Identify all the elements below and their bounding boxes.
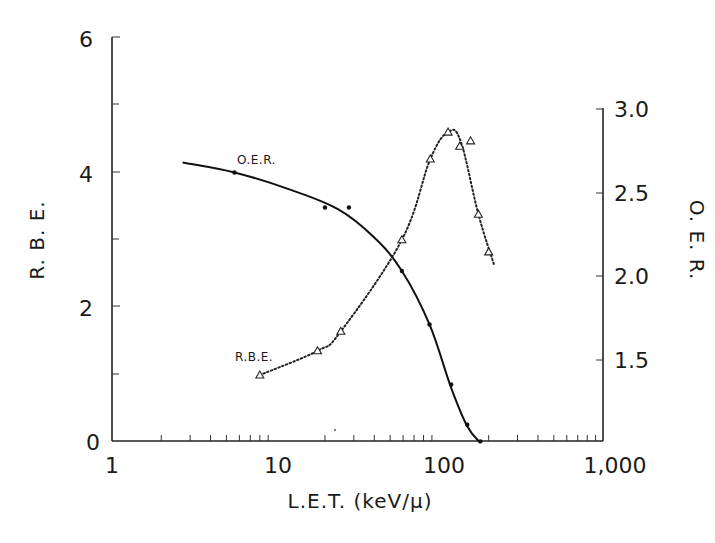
y-tick-label: 0 xyxy=(86,430,100,455)
x-tick-label: 1,000 xyxy=(584,453,647,478)
right-y-axis-title: O. E. R. xyxy=(685,200,709,281)
rbe-annotation: R.B.E. xyxy=(235,350,273,364)
oer-data-point xyxy=(400,269,404,273)
right-y-ticks xyxy=(596,109,603,360)
x-ticks xyxy=(161,435,595,441)
left-y-ticks xyxy=(112,37,120,374)
y-right-tick-label: 2.5 xyxy=(614,181,649,206)
oer-annotation: O.E.R. xyxy=(237,153,276,167)
oer-data-point xyxy=(465,422,469,426)
oer-data-point xyxy=(347,205,351,209)
rbe-curve xyxy=(260,130,494,375)
oer-markers xyxy=(232,170,482,443)
rbe-data-point xyxy=(474,210,482,217)
y-right-tick-label: 3.0 xyxy=(614,97,649,122)
x-tick-label: 1 xyxy=(105,453,119,478)
oer-data-point xyxy=(232,170,236,174)
y-tick-label: 6 xyxy=(79,27,93,52)
oer-data-point xyxy=(427,322,431,326)
chart-svg: 6 4 2 0 3.0 2.5 2.0 1.5 1 10 100 1,000 L… xyxy=(0,0,715,543)
x-tick-label: 10 xyxy=(264,453,292,478)
x-axis-title: L.E.T. (keV/μ) xyxy=(288,489,433,513)
oer-data-point xyxy=(449,382,453,386)
oer-data-point xyxy=(323,205,327,209)
rbe-data-point xyxy=(398,236,406,243)
rbe-data-point xyxy=(485,248,493,255)
rbe-data-point xyxy=(426,155,434,162)
y-tick-label: 4 xyxy=(79,162,93,187)
oer-curve xyxy=(183,162,481,443)
rbe-data-point xyxy=(467,137,475,144)
x-tick-label: 100 xyxy=(423,453,465,478)
y-tick-label: 2 xyxy=(79,296,93,321)
stray-dot xyxy=(334,429,336,431)
axes xyxy=(112,37,603,441)
rbe-data-point xyxy=(256,371,264,378)
left-y-axis-title: R. B. E. xyxy=(25,200,49,279)
y-right-tick-label: 2.0 xyxy=(614,264,649,289)
oer-data-point xyxy=(478,439,482,443)
y-right-tick-label: 1.5 xyxy=(614,348,649,373)
rbe-markers xyxy=(256,128,493,378)
